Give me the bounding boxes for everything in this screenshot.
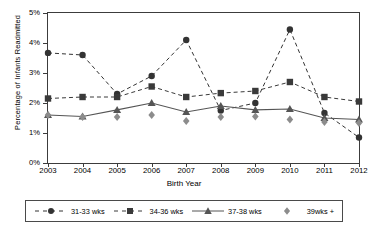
data-point	[114, 113, 121, 121]
x-tick-mark	[221, 163, 222, 167]
series-line	[48, 30, 359, 138]
data-point	[183, 117, 190, 125]
legend-item-34-36-wks[interactable]: 34-36 wks	[113, 206, 184, 216]
data-point	[218, 90, 224, 96]
data-point	[148, 73, 154, 79]
y-tick-label-5: 5%	[14, 9, 40, 17]
series-37-38-wks	[44, 99, 363, 123]
data-point	[45, 95, 51, 101]
data-point	[45, 50, 51, 56]
data-point	[287, 79, 293, 85]
legend-label: 39wks +	[307, 207, 334, 216]
x-tick-mark	[117, 163, 118, 167]
legend-item-31-33-wks[interactable]: 31-33 wks	[34, 206, 105, 216]
x-tick-mark	[83, 163, 84, 167]
data-point	[217, 113, 224, 121]
legend-key-square-icon	[113, 206, 147, 216]
data-point	[79, 94, 85, 100]
series-31-33-wks	[45, 26, 362, 140]
series-39wks-	[45, 111, 363, 127]
x-tick-mark	[255, 163, 256, 167]
x-tick-mark	[152, 163, 153, 167]
legend-label: 31-33 wks	[71, 207, 105, 216]
data-point	[183, 94, 189, 100]
x-tick-mark	[359, 163, 360, 167]
legend-key-circle-icon	[34, 206, 68, 216]
data-point	[148, 99, 156, 106]
x-tick-mark	[290, 163, 291, 167]
series-line	[48, 103, 359, 120]
data-point	[252, 113, 259, 121]
x-tick-mark	[324, 163, 325, 167]
data-point	[252, 88, 258, 94]
data-point	[148, 83, 154, 89]
x-tick-mark	[186, 163, 187, 167]
series-34-36-wks	[45, 79, 362, 105]
data-point	[287, 116, 294, 124]
data-point	[183, 37, 189, 43]
data-point	[79, 52, 85, 58]
x-axis-title: Birth Year	[0, 179, 368, 188]
y-tick-label-0: 0%	[14, 159, 40, 167]
data-point	[356, 134, 362, 140]
data-point	[79, 113, 86, 121]
x-tick-mark	[48, 163, 49, 167]
data-point	[321, 94, 327, 100]
data-point	[287, 26, 293, 32]
data-point	[252, 100, 258, 106]
legend-item-37-38-wks[interactable]: 37-38 wks	[191, 206, 262, 216]
y-tick-label-2: 2%	[14, 99, 40, 107]
x-tick-label-2012: 2012	[339, 167, 368, 175]
legend-key-diamond-icon	[270, 206, 304, 216]
data-point	[114, 94, 120, 100]
chart-legend: 31-33 wks34-36 wks37-38 wks39wks +	[25, 200, 343, 222]
y-tick-label-1: 1%	[14, 129, 40, 137]
legend-label: 34-36 wks	[150, 207, 184, 216]
chart-container: Percentage of Infants Readmitted 0%1%2%3…	[0, 0, 368, 230]
plot-area	[47, 12, 360, 164]
legend-key-triangle-icon	[191, 206, 225, 216]
data-point	[148, 111, 155, 119]
legend-item-39wks-[interactable]: 39wks +	[270, 206, 334, 216]
data-point	[356, 98, 362, 104]
y-tick-label-3: 3%	[14, 69, 40, 77]
legend-label: 37-38 wks	[228, 207, 262, 216]
series-layer	[48, 13, 359, 163]
y-tick-label-4: 4%	[14, 39, 40, 47]
